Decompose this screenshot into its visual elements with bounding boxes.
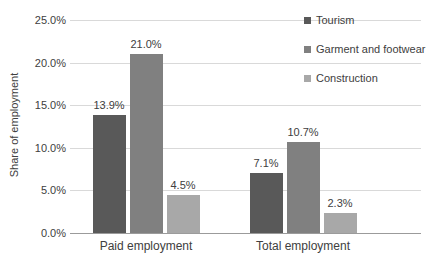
y-tick-label: 5.0% bbox=[6, 183, 66, 197]
legend-swatch-icon bbox=[304, 46, 311, 53]
gridline bbox=[70, 20, 421, 21]
legend-label: Tourism bbox=[316, 14, 355, 26]
bar-tourism-paid-employment bbox=[93, 115, 126, 233]
bar-value-label: 13.9% bbox=[82, 98, 136, 112]
legend-item-tourism: Tourism bbox=[304, 13, 355, 27]
bar-tourism-total-employment bbox=[250, 173, 283, 233]
bar-value-label: 4.5% bbox=[156, 178, 210, 192]
gridline bbox=[70, 63, 421, 64]
bar-value-label: 21.0% bbox=[119, 37, 173, 51]
bar-value-label: 7.1% bbox=[239, 156, 293, 170]
legend-item-construction: Construction bbox=[304, 71, 378, 85]
category-label-paid-employment: Paid employment bbox=[76, 239, 216, 253]
bar-value-label: 10.7% bbox=[276, 125, 330, 139]
y-tick-label: 25.0% bbox=[6, 13, 66, 27]
bar-construction-total-employment bbox=[324, 213, 357, 233]
legend-item-garment-and-footwear: Garment and footwear bbox=[304, 42, 425, 56]
x-axis-line bbox=[70, 233, 421, 234]
legend-label: Garment and footwear bbox=[316, 43, 425, 55]
bar-garment-and-footwear-total-employment bbox=[287, 142, 320, 233]
category-label-total-employment: Total employment bbox=[233, 239, 373, 253]
legend-label: Construction bbox=[316, 72, 378, 84]
y-tick-label: 15.0% bbox=[6, 98, 66, 112]
legend-swatch-icon bbox=[304, 75, 311, 82]
y-tick-label: 0.0% bbox=[6, 226, 66, 240]
bar-garment-and-footwear-paid-employment bbox=[130, 54, 163, 233]
bar-chart: Share of employment 0.0%5.0%10.0%15.0%20… bbox=[0, 0, 427, 266]
y-tick-label: 20.0% bbox=[6, 56, 66, 70]
bar-construction-paid-employment bbox=[167, 195, 200, 233]
bar-value-label: 2.3% bbox=[313, 196, 367, 210]
y-tick-label: 10.0% bbox=[6, 141, 66, 155]
legend-swatch-icon bbox=[304, 17, 311, 24]
